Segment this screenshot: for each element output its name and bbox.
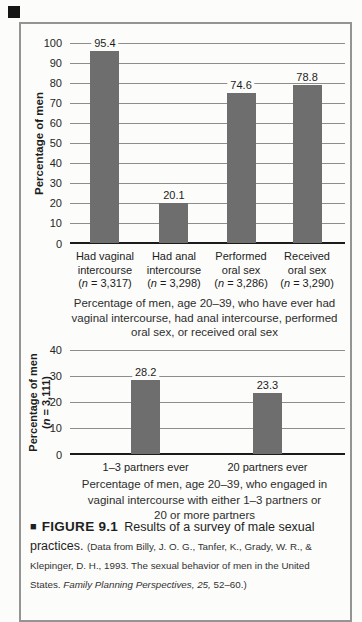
x-category-label: Performedoral sex(n = 3,286) [214,250,268,291]
gridline [70,350,345,351]
chart1-caption: Percentage of men, age 20–39, who have e… [61,296,348,340]
x-axis-line [70,453,345,455]
x-category-label: 20 partners ever [227,461,307,475]
gridline [70,376,345,377]
y-tick-label: 20 [50,396,62,408]
y-tick-label: 80 [50,77,62,89]
caption-line: Percentage of men, age 20–39, who have e… [61,296,348,311]
chart2-y-axis-title-line1: Percentage of men [27,353,40,451]
caption-line: vaginal intercourse with either 1–3 part… [61,493,348,509]
figure-caption: ■FIGURE 9.1Results of a survey of male s… [30,517,342,594]
y-tick-label: 10 [50,217,62,229]
y-tick-label: 70 [50,97,62,109]
y-tick-label: 30 [50,177,62,189]
bar [131,380,160,454]
x-category-label: Had analintercourse(n = 3,298) [147,250,201,291]
x-category-label: Receivedoral sex(n = 3,290) [280,250,334,291]
chart2-y-axis-title-text: Percentage of men (n = 3,111) [27,353,52,451]
figure-number-label: FIGURE 9.1 [42,519,119,534]
y-tick-label: 40 [50,157,62,169]
y-tick-label: 100 [44,37,62,49]
caption-line: Percentage of men, age 20–39, who engage… [61,477,348,493]
y-tick-label: 90 [50,57,62,69]
bar-value-label: 95.4 [91,37,118,49]
bar-value-label: 23.3 [254,379,281,391]
x-category-label: 1–3 partners ever [103,461,189,475]
y-tick-label: 0 [56,238,62,250]
figure-frame: Percentage of men 0102030405060708090100… [19,22,352,622]
caption-line: vaginal intercourse, had anal intercours… [61,311,348,326]
bar-value-label: 28.2 [132,366,159,378]
y-tick-label: 60 [50,117,62,129]
chart1-y-axis-title: Percentage of men [29,43,49,244]
gridline [70,402,345,403]
caption-line: oral sex, or received oral sex [61,325,348,340]
scan-corner-mark [8,6,20,18]
x-category-label: Had vaginalintercourse(n = 3,317) [76,250,134,291]
bar-value-label: 20.1 [160,189,187,201]
bar-value-label: 78.8 [293,71,320,83]
y-tick-label: 30 [50,370,62,382]
bar [253,393,282,454]
gridline [70,428,345,429]
chart2-plot-area: 01020304028.223.3 [70,350,345,455]
bar [159,203,188,243]
chart1-plot-area: 010203040506070809010095.420.174.678.8 [70,43,345,244]
chart1-y-axis-title-text: Percentage of men [33,92,46,195]
figure-bullet-icon: ■ [30,520,37,532]
citation-journal-italic: Family Planning Perspectives, 25, [63,579,211,590]
y-tick-label: 20 [50,197,62,209]
bar [227,93,256,243]
y-tick-label: 50 [50,137,62,149]
bar [293,85,322,243]
bar [90,51,119,243]
bar-value-label: 74.6 [227,79,254,91]
y-tick-label: 40 [50,344,62,356]
y-tick-label: 10 [50,422,62,434]
y-tick-label: 0 [56,449,62,461]
